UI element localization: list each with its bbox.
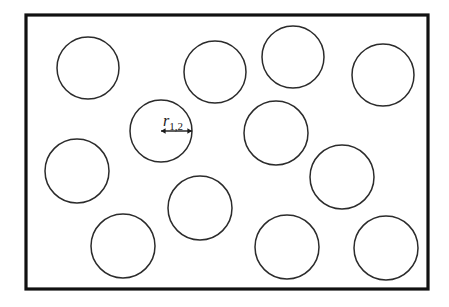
- disk: [352, 44, 414, 106]
- disk: [255, 215, 319, 279]
- disk: [184, 41, 246, 103]
- figure-root: r1,2: [0, 0, 449, 307]
- disk: [354, 216, 418, 280]
- circle-packing-diagram: r1,2: [0, 0, 449, 307]
- disk: [262, 26, 324, 88]
- disk: [244, 101, 308, 165]
- disk: [57, 37, 119, 99]
- disk: [91, 214, 155, 278]
- disk: [45, 139, 109, 203]
- disk: [310, 145, 374, 209]
- disk: [168, 176, 232, 240]
- radius-label-subscript: 1,2: [169, 120, 183, 132]
